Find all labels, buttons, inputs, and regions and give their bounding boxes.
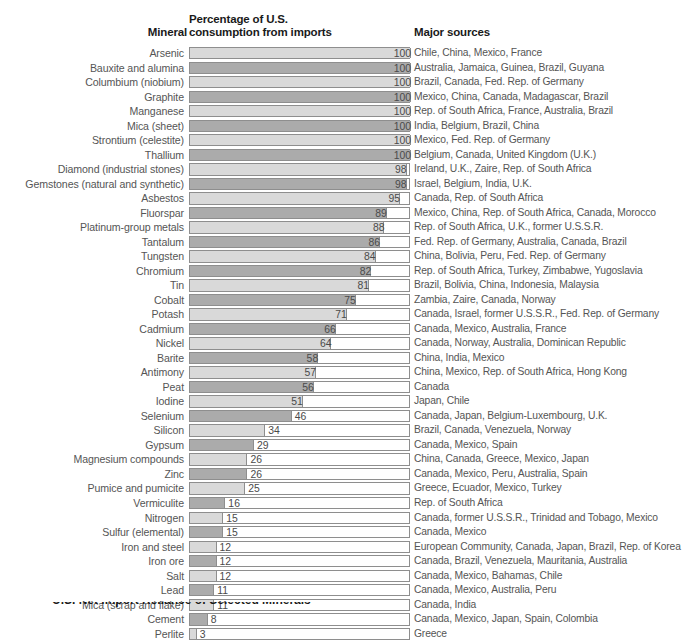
chart-row: Silicon34Brazil, Canada, Venezuela, Norw… xyxy=(0,423,690,438)
chart-row: Nitrogen15Canada, former U.S.S.R., Trini… xyxy=(0,511,690,526)
bar xyxy=(190,425,265,435)
bar-value-label: 26 xyxy=(247,469,414,481)
bar-track: 95 xyxy=(189,192,410,204)
bar-value-label: 3 xyxy=(197,629,414,641)
chart-row: Bauxite and alumina100Australia, Jamaica… xyxy=(0,61,690,76)
bar-value-label: 15 xyxy=(223,527,414,539)
chart-row: Magnesium compounds26China, Canada, Gree… xyxy=(0,452,690,467)
bar-track: 71 xyxy=(189,308,410,320)
bar-track: 88 xyxy=(189,221,410,233)
bar-track: 64 xyxy=(189,337,410,349)
bar-value-label: 86 xyxy=(190,237,383,249)
chart-row: Strontium (celestite)100Mexico, Fed. Rep… xyxy=(0,133,690,148)
chart-row: Platinum-group metals88Rep. of South Afr… xyxy=(0,220,690,235)
bar-track: 56 xyxy=(189,381,410,393)
source-countries: European Community, Canada, Japan, Brazi… xyxy=(414,540,690,555)
mineral-label: Magnesium compounds xyxy=(0,452,184,467)
bar-track: 100 xyxy=(189,120,410,132)
bar-value-label: 100 xyxy=(190,63,414,75)
bar-value-label: 100 xyxy=(190,77,414,89)
chart-row: Barite58China, India, Mexico xyxy=(0,351,690,366)
bar-value-label: 100 xyxy=(190,135,414,147)
bar-value-label: 82 xyxy=(190,266,374,278)
bar-value-label: 34 xyxy=(265,425,414,437)
bar xyxy=(190,585,214,595)
chart-row: Perlite3Greece xyxy=(0,627,690,641)
bar-track: 11 xyxy=(189,584,410,596)
source-countries: Canada, Japan, Belgium-Luxembourg, U.K. xyxy=(414,409,690,424)
source-countries: Israel, Belgium, India, U.K. xyxy=(414,177,690,192)
column-header-mineral: Mineral xyxy=(60,26,187,39)
mineral-label: Tin xyxy=(0,278,184,293)
bar-value-label: 88 xyxy=(190,222,387,234)
bar-chart: Arsenic100Chile, China, Mexico, FranceBa… xyxy=(0,46,690,641)
bar-value-label: 100 xyxy=(190,92,414,104)
bar xyxy=(190,527,223,537)
bar-value-label: 12 xyxy=(217,571,414,583)
bar-value-label: 100 xyxy=(190,106,414,118)
chart-row: Tin81Brazil, Bolivia, China, Indonesia, … xyxy=(0,278,690,293)
chart-row: Salt12Canada, Mexico, Bahamas, Chile xyxy=(0,569,690,584)
mineral-label: Sulfur (elemental) xyxy=(0,525,184,540)
source-countries: Mexico, Fed. Rep. of Germany xyxy=(414,133,690,148)
bar-value-label: 81 xyxy=(190,280,372,292)
bar-track: 26 xyxy=(189,453,410,465)
source-countries: Canada xyxy=(414,380,690,395)
bar-value-label: 58 xyxy=(190,353,321,365)
source-countries: China, Mexico, Rep. of South Africa, Hon… xyxy=(414,365,690,380)
bar-track: 29 xyxy=(189,439,410,451)
source-countries: Mexico, China, Canada, Madagascar, Brazi… xyxy=(414,90,690,105)
chart-row: Gemstones (natural and synthetic)98Israe… xyxy=(0,177,690,192)
bar-track: 34 xyxy=(189,424,410,436)
mineral-label: Manganese xyxy=(0,104,184,119)
chart-row: Iron ore12Canada, Brazil, Venezuela, Mau… xyxy=(0,554,690,569)
bar-track: 51 xyxy=(189,395,410,407)
source-countries: Belgium, Canada, United Kingdom (U.K.) xyxy=(414,148,690,163)
bar xyxy=(190,629,197,639)
bar xyxy=(190,498,225,508)
bar xyxy=(190,411,292,421)
bar-value-label: 56 xyxy=(190,382,317,394)
chart-row: Nickel64Canada, Norway, Australia, Domin… xyxy=(0,336,690,351)
mineral-label: Thallium xyxy=(0,148,184,163)
source-countries: Canada, Rep. of South Africa xyxy=(414,191,690,206)
source-countries: Greece xyxy=(414,627,690,641)
mineral-label: Arsenic xyxy=(0,46,184,61)
mineral-label: Nitrogen xyxy=(0,511,184,526)
chart-row: Tungsten84China, Bolivia, Peru, Fed. Rep… xyxy=(0,249,690,264)
mineral-label: Columbium (niobium) xyxy=(0,75,184,90)
bar-track: 75 xyxy=(189,294,410,306)
bar-value-label: 89 xyxy=(190,208,390,220)
bar-track: 100 xyxy=(189,76,410,88)
bar xyxy=(190,614,208,624)
chart-row: Columbium (niobium)100Brazil, Canada, Fe… xyxy=(0,75,690,90)
bar-value-label: 100 xyxy=(190,150,414,162)
mineral-label: Potash xyxy=(0,307,184,322)
source-countries: Mexico, China, Rep. of South Africa, Can… xyxy=(414,206,690,221)
mineral-label: Tungsten xyxy=(0,249,184,264)
bar xyxy=(190,513,223,523)
bar-value-label: 95 xyxy=(190,193,403,205)
source-countries: Brazil, Canada, Fed. Rep. of Germany xyxy=(414,75,690,90)
source-countries: Zambia, Zaire, Canada, Norway xyxy=(414,293,690,308)
mineral-label: Cadmium xyxy=(0,322,184,337)
bar-track: 26 xyxy=(189,468,410,480)
chart-row: Thallium100Belgium, Canada, United Kingd… xyxy=(0,148,690,163)
bar-track: 12 xyxy=(189,555,410,567)
source-countries: Rep. of South Africa, France, Australia,… xyxy=(414,104,690,119)
bar-track: 100 xyxy=(189,134,410,146)
source-countries: Canada, Mexico, Spain xyxy=(414,438,690,453)
mineral-label: Iron ore xyxy=(0,554,184,569)
bar-value-label: 98 xyxy=(190,179,410,191)
bar-track: 15 xyxy=(189,512,410,524)
bar-track: 82 xyxy=(189,265,410,277)
mineral-label: Pumice and pumicite xyxy=(0,481,184,496)
source-countries: Canada, Mexico xyxy=(414,525,690,540)
bar-value-label: 12 xyxy=(217,542,414,554)
bar-value-label: 66 xyxy=(190,324,339,336)
chart-row: Gypsum29Canada, Mexico, Spain xyxy=(0,438,690,453)
source-countries: Brazil, Canada, Venezuela, Norway xyxy=(414,423,690,438)
source-countries: China, India, Mexico xyxy=(414,351,690,366)
chart-header: Mineral Percentage of U.S. consumption f… xyxy=(0,0,690,46)
mineral-label: Iron and steel xyxy=(0,540,184,555)
